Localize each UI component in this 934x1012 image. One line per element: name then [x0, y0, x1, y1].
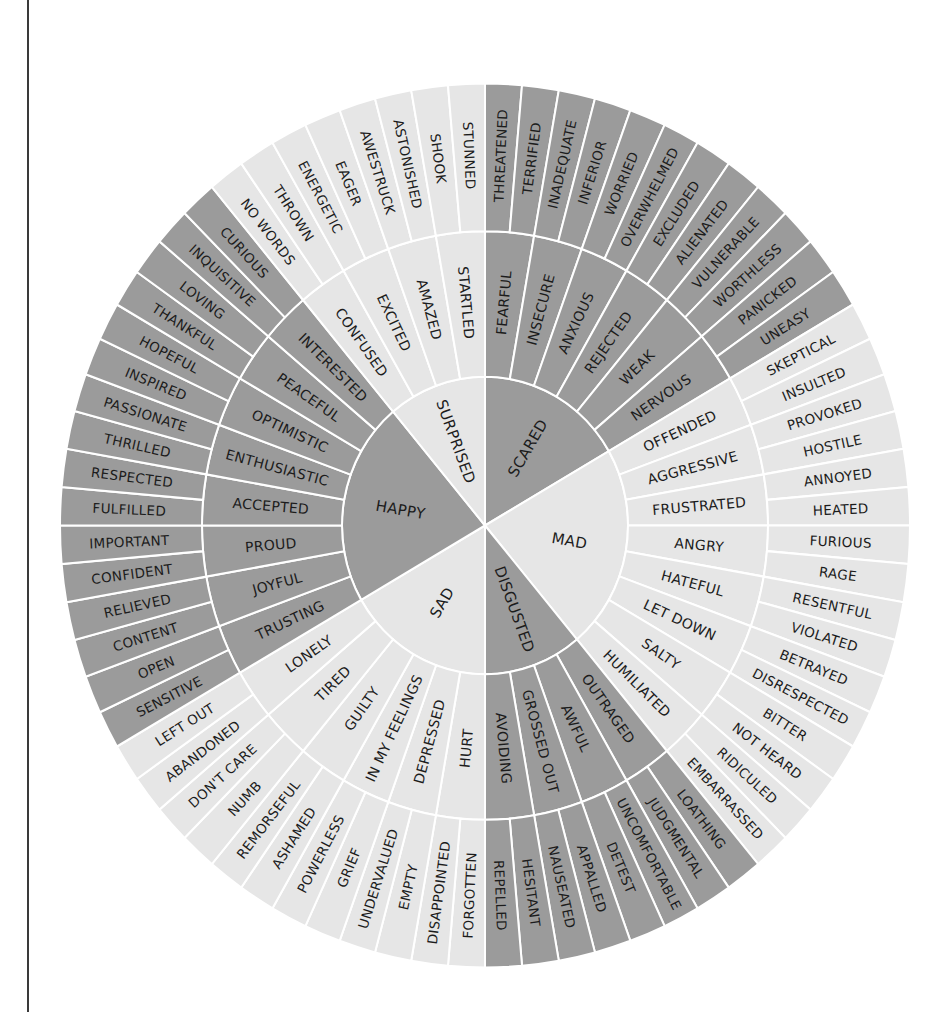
outer-label-fulfilled: FULFILLED: [92, 500, 166, 519]
emotion-wheel: SCAREDFEARFULTHREATENEDTERRIFIEDINSECURE…: [0, 0, 934, 1012]
outer-label-heated: HEATED: [812, 500, 868, 518]
outer-label-stunned: STUNNED: [460, 121, 479, 190]
middle-label-hurt: HURT: [457, 728, 476, 769]
outer-label-furious: FURIOUS: [809, 532, 872, 551]
outer-label-repelled: REPELLED: [491, 860, 510, 932]
